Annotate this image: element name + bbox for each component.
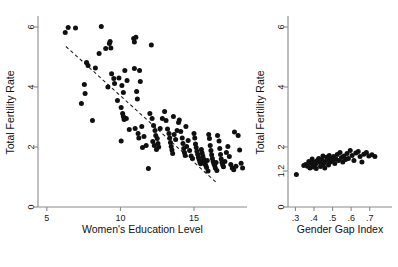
x-tick-label-left-0: 5 <box>44 213 49 223</box>
data-point <box>183 124 188 129</box>
x-tick-label-right-3: .6 <box>347 213 355 223</box>
data-point <box>166 131 171 136</box>
data-point <box>139 124 144 129</box>
data-point <box>66 25 71 30</box>
data-point <box>99 24 104 29</box>
data-point <box>221 164 226 169</box>
data-point <box>79 101 84 106</box>
data-point <box>173 137 178 142</box>
data-point <box>125 78 130 83</box>
data-point <box>135 97 140 102</box>
data-point <box>136 131 141 136</box>
data-point <box>236 133 241 138</box>
data-point <box>187 148 192 153</box>
data-point <box>149 43 154 48</box>
y-tick-label-right-3: 4 <box>276 84 286 89</box>
data-point <box>108 46 113 51</box>
data-point <box>86 63 91 68</box>
data-point <box>108 39 113 44</box>
data-point <box>170 151 175 156</box>
data-point <box>155 136 160 141</box>
x-tick-label-right-2: .5 <box>329 213 337 223</box>
data-point <box>214 160 219 165</box>
data-point <box>192 131 197 136</box>
data-point <box>207 136 212 141</box>
data-point <box>122 68 127 73</box>
y-tick-label-right-4: 6 <box>276 24 286 29</box>
data-point <box>183 153 188 158</box>
data-point <box>138 79 143 84</box>
data-point <box>111 76 116 81</box>
y-tick-label-right-2: 2 <box>276 144 286 149</box>
data-point <box>186 138 191 143</box>
data-point <box>177 118 182 123</box>
data-point <box>150 139 155 144</box>
data-point <box>237 148 242 153</box>
data-point <box>153 128 158 133</box>
data-point <box>338 150 343 155</box>
data-point <box>105 85 110 90</box>
x-tick-label-right-0: .3 <box>292 213 300 223</box>
data-point <box>140 145 145 150</box>
y-axis-title-left: Total Fertility Rate <box>4 70 16 154</box>
data-point <box>97 51 102 56</box>
data-point <box>205 158 210 163</box>
data-point <box>93 66 98 71</box>
data-point <box>115 98 120 103</box>
data-points-right <box>294 148 378 177</box>
data-point <box>206 169 211 174</box>
data-points-left <box>63 24 245 174</box>
data-point <box>165 127 170 132</box>
data-point <box>167 136 172 141</box>
data-point <box>146 166 151 171</box>
data-point <box>227 154 232 159</box>
data-point <box>136 136 141 141</box>
data-point <box>208 143 213 148</box>
data-point <box>82 82 87 87</box>
x-tick-label-left-1: 10 <box>115 213 125 223</box>
data-point <box>73 25 78 30</box>
x-tick-label-right-4: .7 <box>366 213 374 223</box>
data-point <box>134 89 139 94</box>
data-point <box>133 35 138 40</box>
y-tick-label-right-1: 1.2 <box>276 165 286 178</box>
data-point <box>147 111 152 116</box>
data-point <box>141 134 146 139</box>
data-point <box>132 66 137 71</box>
data-point <box>133 126 138 131</box>
panel-left: 024651015Women's Education LevelTotal Fe… <box>4 16 247 235</box>
data-point <box>239 161 244 166</box>
y-tick-label-right-0: 0 <box>276 204 286 209</box>
data-point <box>124 116 129 121</box>
data-point <box>119 105 124 110</box>
data-point <box>225 144 230 149</box>
data-point <box>314 166 319 171</box>
data-point <box>351 158 356 163</box>
x-axis-title-left: Women's Education Level <box>82 223 203 235</box>
x-axis-title-right: Gender Gap Index <box>297 223 384 235</box>
scatter-figure: 024651015Women's Education LevelTotal Fe… <box>0 0 398 267</box>
data-point <box>217 139 222 144</box>
data-point <box>137 68 142 73</box>
data-point <box>63 30 68 35</box>
data-point <box>215 133 220 138</box>
data-point <box>127 127 132 132</box>
data-point <box>217 146 222 151</box>
data-point <box>356 149 361 154</box>
y-tick-label-left-3: 6 <box>26 24 36 29</box>
data-point <box>116 76 121 81</box>
data-point <box>158 126 163 131</box>
data-point <box>218 152 223 157</box>
data-point <box>372 154 377 159</box>
data-point <box>240 166 245 171</box>
x-tick-label-left-2: 15 <box>189 213 199 223</box>
data-point <box>162 109 167 114</box>
data-point <box>184 144 189 149</box>
data-point <box>83 91 88 96</box>
figure-canvas: 024651015Women's Education LevelTotal Fe… <box>0 0 398 267</box>
data-point <box>119 139 124 144</box>
data-point <box>233 164 238 169</box>
data-point <box>214 168 219 173</box>
data-point <box>206 132 211 137</box>
data-point <box>121 90 126 95</box>
